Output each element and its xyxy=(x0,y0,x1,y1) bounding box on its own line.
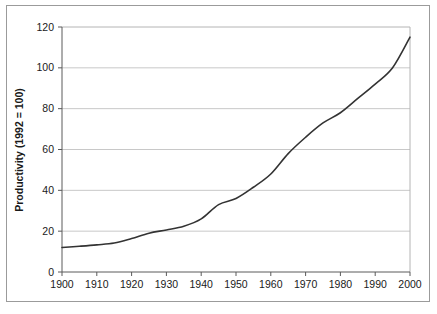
x-tick-label: 1930 xyxy=(155,278,179,290)
x-axis: 1900191019201930194019501960197019801990… xyxy=(50,272,422,290)
y-axis: 020406080100120 xyxy=(36,21,62,278)
chart-figure: 020406080100120 190019101920193019401950… xyxy=(0,0,437,314)
y-tick-label: 100 xyxy=(36,61,54,73)
x-tick-label: 1950 xyxy=(224,278,248,290)
productivity-line-chart: 020406080100120 190019101920193019401950… xyxy=(0,0,437,314)
x-tick-label: 1900 xyxy=(50,278,74,290)
x-tick-label: 2000 xyxy=(398,278,422,290)
x-tick-label: 1920 xyxy=(120,278,144,290)
y-axis-title: Productivity (1992 = 100) xyxy=(13,88,25,211)
x-tick-label: 1990 xyxy=(364,278,388,290)
x-tick-label: 1960 xyxy=(259,278,283,290)
y-tick-label: 120 xyxy=(36,21,54,33)
y-tick-label: 80 xyxy=(42,102,54,114)
y-tick-label: 0 xyxy=(48,266,54,278)
x-tick-label: 1970 xyxy=(294,278,318,290)
x-tick-label: 1910 xyxy=(85,278,109,290)
y-tick-label: 60 xyxy=(42,143,54,155)
y-tick-label: 40 xyxy=(42,184,54,196)
x-tick-label: 1980 xyxy=(329,278,353,290)
y-tick-label: 20 xyxy=(42,225,54,237)
x-tick-label: 1940 xyxy=(190,278,214,290)
